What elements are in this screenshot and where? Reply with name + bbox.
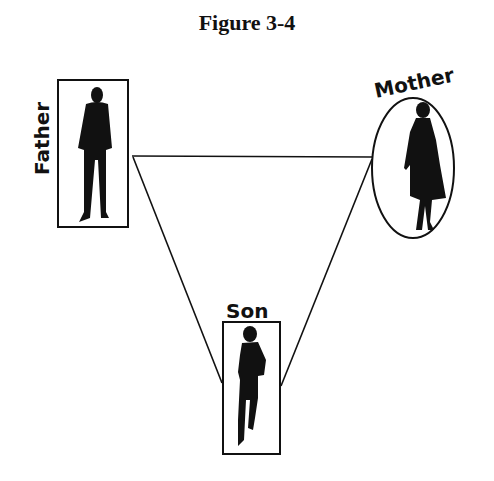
edge-mother-son <box>281 159 372 386</box>
son-node: Son <box>223 299 280 454</box>
father-node: Father <box>30 80 128 227</box>
edge-father-son <box>133 157 222 383</box>
mother-node: Mother <box>372 63 456 238</box>
triangle-diagram: Father Mother Son <box>0 0 494 481</box>
mother-label: Mother <box>372 63 456 103</box>
father-label: Father <box>30 102 54 175</box>
son-label: Son <box>226 299 268 323</box>
edge-father-mother <box>132 156 372 157</box>
